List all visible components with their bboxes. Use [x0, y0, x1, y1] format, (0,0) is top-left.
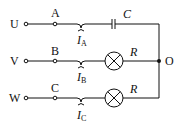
- current-meter-c-icon: [77, 98, 85, 102]
- source-terminal-u: [24, 22, 28, 26]
- lamp-b-icon: [105, 52, 123, 70]
- terminal-b: [53, 59, 57, 63]
- neutral-label: O: [165, 54, 174, 68]
- source-terminal-v: [24, 59, 28, 63]
- source-label-w: W: [9, 91, 21, 105]
- current-label-c: IC: [76, 108, 86, 123]
- current-meter-b-icon: [77, 61, 85, 65]
- resistor-label-b: R: [129, 45, 138, 59]
- source-label-v: V: [10, 54, 19, 68]
- phase-v-wire: [24, 52, 159, 70]
- current-label-a: IA: [76, 33, 87, 48]
- circuit-diagram: U V W A B C IA IB IC C R R O: [0, 0, 181, 132]
- terminal-a: [53, 22, 57, 26]
- source-label-u: U: [10, 17, 19, 31]
- lamp-c-icon: [105, 89, 123, 107]
- neutral-node-dot: [157, 59, 161, 63]
- terminal-label-a: A: [51, 6, 60, 20]
- current-label-b: IB: [76, 70, 86, 85]
- terminal-label-b: B: [51, 44, 59, 58]
- current-meter-a-icon: [77, 24, 85, 28]
- phase-w-wire: [24, 89, 159, 107]
- terminal-label-c: C: [51, 81, 59, 95]
- terminal-c: [53, 96, 57, 100]
- source-terminal-w: [24, 96, 28, 100]
- phase-u-wire: [24, 19, 159, 31]
- resistor-label-c: R: [129, 82, 138, 96]
- capacitor-label: C: [123, 7, 132, 21]
